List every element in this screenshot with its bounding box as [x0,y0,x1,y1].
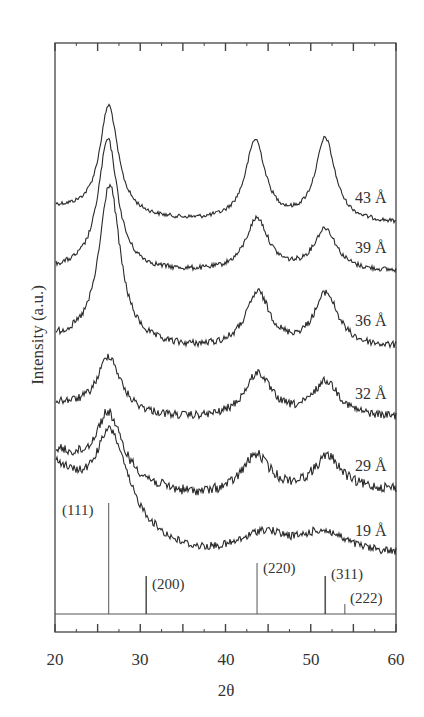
xrd-chart [0,0,424,717]
series-label-19A: 19 Å [355,522,387,540]
series-label-39A: 39 Å [355,239,387,257]
reference-label-311: (311) [331,566,363,583]
xrd-traces [56,104,396,554]
x-axis-label: 2θ [218,681,235,701]
reference-label-111: (111) [62,502,93,519]
xrd-trace [56,409,396,496]
reference-lines [109,503,345,614]
reference-label-220: (220) [263,560,296,577]
xrd-trace [56,354,396,420]
x-tick-label: 40 [218,650,235,670]
reference-label-200: (200) [152,576,185,593]
x-tick-label: 20 [47,650,64,670]
x-tick-label: 60 [388,650,405,670]
series-label-43A: 43 Å [355,189,387,207]
x-tick-label: 30 [132,650,149,670]
series-label-29A: 29 Å [355,457,387,475]
x-tick-label: 50 [303,650,320,670]
xrd-trace [56,104,396,222]
xrd-trace [56,426,396,555]
y-axis-label: Intensity (a.u.) [28,285,48,385]
reference-label-222: (222) [350,590,383,607]
xrd-trace [56,139,396,272]
series-label-32A: 32 Å [355,385,387,403]
series-label-36A: 36 Å [355,312,387,330]
